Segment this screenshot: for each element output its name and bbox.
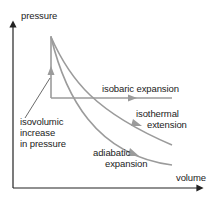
y-axis-label: pressure — [21, 10, 57, 21]
adiabatic-label-line-1: adiabatic — [93, 147, 147, 158]
adiabatic-label-line-2: expansion — [93, 158, 147, 169]
isothermal-label-line-1: isothermal — [136, 108, 187, 119]
isovolumic-leader-line — [25, 78, 50, 118]
isothermal-label: isothermal extension — [136, 108, 187, 130]
isothermal-label-line-2: extension — [136, 119, 187, 130]
isovolumic-label-line-3: in pressure — [20, 138, 66, 149]
isobaric-label: isobaric expansion — [102, 83, 179, 94]
x-axis-label: volume — [176, 172, 206, 183]
isovolumic-label: isovolumic increase in pressure — [20, 116, 66, 149]
adiabatic-curve — [51, 37, 172, 165]
isovolumic-label-line-1: isovolumic — [20, 116, 66, 127]
isovolumic-arrow-icon — [48, 66, 55, 75]
isovolumic-label-line-2: increase — [20, 127, 66, 138]
adiabatic-label: adiabatic expansion — [93, 147, 147, 169]
isobaric-arrow-icon — [128, 95, 137, 102]
